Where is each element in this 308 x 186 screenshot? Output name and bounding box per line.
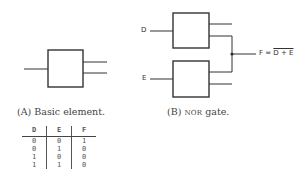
wired-or-connection	[209, 36, 232, 72]
cell: 0	[22, 145, 47, 153]
cell: 1	[47, 161, 72, 169]
cell: 0	[47, 153, 72, 161]
caption-b-suffix: gate.	[202, 106, 229, 117]
table-row: 1 1 0	[22, 161, 96, 169]
cell: 1	[47, 145, 72, 153]
input-e-label: E	[142, 74, 146, 82]
header-f: F	[72, 126, 97, 137]
cell: 1	[72, 137, 97, 146]
caption-b: (B) NOR gate.	[167, 106, 229, 117]
nor-top-element-box	[173, 13, 209, 48]
cell: 1	[22, 153, 47, 161]
basic-element-box	[48, 50, 83, 87]
truth-table-header: D E F	[22, 126, 96, 137]
cell: 0	[72, 145, 97, 153]
caption-a: (A) Basic element.	[17, 106, 105, 117]
header-e: E	[47, 126, 72, 137]
cell: 0	[72, 153, 97, 161]
caption-b-nor: NOR	[184, 109, 202, 117]
table-row: 1 0 0	[22, 153, 96, 161]
table-row: 0 1 0	[22, 145, 96, 153]
formula-lhs: F =	[259, 49, 273, 57]
truth-table: D E F 0 0 1 0 1 0 1 0 0 1 1 0	[22, 126, 96, 169]
nor-gate	[150, 13, 256, 97]
junction-dot	[230, 52, 233, 55]
cell: 0	[72, 161, 97, 169]
cell: 1	[22, 161, 47, 169]
table-row: 0 0 1	[22, 137, 96, 146]
cell: 0	[22, 137, 47, 146]
basic-element	[24, 50, 107, 87]
caption-b-prefix: (B)	[167, 106, 184, 117]
header-d: D	[22, 126, 47, 137]
formula-rhs-overlined: D + E	[273, 49, 293, 57]
output-formula: F = D + E	[259, 49, 293, 57]
input-d-label: D	[141, 26, 146, 34]
cell: 0	[47, 137, 72, 146]
nor-bottom-element-box	[173, 61, 209, 97]
